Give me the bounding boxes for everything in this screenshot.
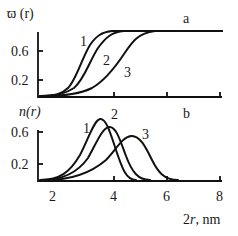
top-curve-label-2: 2 xyxy=(103,53,110,68)
top-ytick-label-02: 0.2 xyxy=(11,73,29,88)
top-panel-label: a xyxy=(183,11,190,26)
bottom-panel-label: b xyxy=(183,106,190,121)
figure: ϖ (r) 0.6 0.2 1 2 3 a n(r) 0.6 0.2 xyxy=(0,0,238,236)
top-curve-2 xyxy=(40,31,222,96)
xtick-label-4: 4 xyxy=(110,189,117,204)
bottom-curve-label-1: 1 xyxy=(83,121,90,136)
bottom-curve-label-2: 2 xyxy=(111,107,118,122)
bottom-curve-label-3: 3 xyxy=(142,127,149,142)
top-curve-label-3: 3 xyxy=(124,65,131,80)
xtick-label-2: 2 xyxy=(49,189,56,204)
xtick-label-6: 6 xyxy=(163,189,170,204)
xtick-label-8: 8 xyxy=(216,189,223,204)
top-y-axis-label: ϖ (r) xyxy=(7,6,34,22)
panel-a: ϖ (r) 0.6 0.2 1 2 3 a xyxy=(7,6,222,97)
top-curve-label-1: 1 xyxy=(80,34,87,49)
top-ytick-label-06: 0.6 xyxy=(11,44,29,59)
bottom-curve-2 xyxy=(42,127,150,180)
bottom-ytick-label-06: 0.6 xyxy=(11,125,29,140)
top-curve-1 xyxy=(40,31,222,96)
panel-b: n(r) 0.6 0.2 1 2 3 b 2 4 6 8 2r, nm xyxy=(11,104,223,227)
x-axis-label: 2r, nm xyxy=(183,212,220,227)
bottom-ytick-label-02: 0.2 xyxy=(11,157,29,172)
bottom-y-axis-label: n(r) xyxy=(19,104,41,120)
